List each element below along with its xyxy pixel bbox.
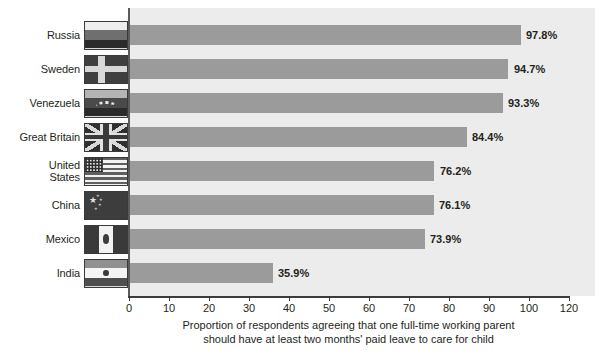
category-row-sweden: Sweden [0,52,128,86]
bar-great-britain [130,127,468,147]
flag-sweden-icon [84,55,128,84]
flag-great-britain-icon [84,123,128,152]
x-axis-caption: Proportion of respondents agreeing that … [128,318,569,346]
x-tick [409,296,410,301]
bar-value-mexico: 73.9% [430,229,461,249]
x-tick-label: 120 [560,302,578,314]
bar-india [130,263,274,283]
bar-russia [130,25,521,45]
bar-china [130,195,434,215]
x-tick [169,296,170,301]
x-tick-label: 0 [126,302,132,314]
bar-value-china: 76.1% [439,195,470,215]
category-label: Great Britain [20,131,84,144]
category-axis: Russia Sweden Venezuela Gr [0,0,128,292]
flag-china-icon: ★ ★ ★ ★ ★ [84,191,128,220]
x-tick-label: 30 [243,302,255,314]
bar-value-india: 35.9% [278,263,309,283]
caption-line-1: Proportion of respondents agreeing that … [128,318,569,332]
x-tick-label: 100 [520,302,538,314]
category-label: China [52,199,84,212]
category-label: Sweden [41,63,84,76]
category-label: Russia [47,29,84,42]
category-row-china: China ★ ★ ★ ★ ★ [0,188,128,222]
category-row-mexico: Mexico [0,222,128,256]
bar-value-united-states: 76.2% [440,161,471,181]
plot-area [128,8,595,296]
bar-venezuela [130,93,503,113]
x-tick [329,296,330,301]
bar-value-great-britain: 84.4% [472,127,503,147]
x-tick [529,296,530,301]
x-axis-line [128,296,569,298]
x-tick-label: 70 [403,302,415,314]
bar-sweden [130,59,509,79]
bar-mexico [130,229,426,249]
x-tick-label: 40 [283,302,295,314]
x-tick-label: 10 [163,302,175,314]
x-tick-label: 50 [323,302,335,314]
x-tick-label: 90 [483,302,495,314]
x-tick [449,296,450,301]
bar-value-sweden: 94.7% [514,59,545,79]
x-tick [569,296,570,301]
bar-chart: Russia Sweden Venezuela Gr [0,0,595,351]
x-tick-label: 20 [203,302,215,314]
x-tick [489,296,490,301]
x-tick [369,296,370,301]
x-tick-label: 60 [363,302,375,314]
y-axis-line [128,8,130,296]
bar-united-states [130,161,435,181]
category-row-india: India [0,256,128,290]
flag-mexico-icon [84,225,128,254]
flag-venezuela-icon [84,89,128,118]
x-tick [289,296,290,301]
india-chakra [103,270,108,276]
category-label: Mexico [46,233,84,246]
caption-line-2: should have at least two months' paid le… [128,332,569,346]
category-row-venezuela: Venezuela [0,86,128,120]
bar-value-russia: 97.8% [526,25,557,45]
flag-united-states-icon [84,157,128,186]
flag-russia-icon [84,21,128,50]
x-tick [129,296,130,301]
x-tick-label: 80 [443,302,455,314]
category-label: India [57,267,84,280]
x-tick [249,296,250,301]
bar-value-venezuela: 93.3% [508,93,539,113]
category-row-great-britain: Great Britain [0,120,128,154]
x-tick [209,296,210,301]
category-row-russia: Russia [0,18,128,52]
category-label: United States [49,159,84,184]
category-row-united-states: United States [0,154,128,188]
mexico-emblem [103,234,110,244]
flag-india-icon [84,259,128,288]
category-label: Venezuela [30,97,84,110]
